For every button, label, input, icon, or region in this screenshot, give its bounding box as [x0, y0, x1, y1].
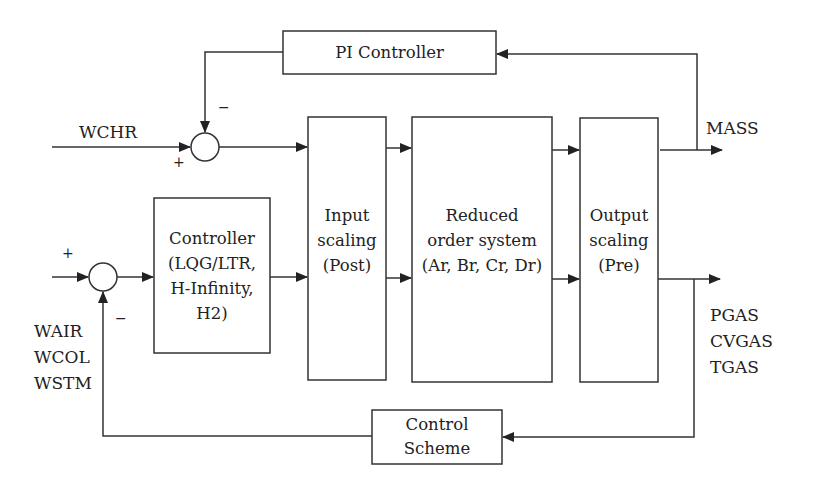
wstm-label: WSTM: [34, 370, 92, 396]
waux-inputs-label: WAIR WCOL WSTM: [34, 318, 92, 396]
gas-outputs-label: PGAS CVGAS TGAS: [710, 302, 773, 380]
cvgas-label: CVGAS: [710, 328, 773, 354]
input-scaling-label: Input scaling (Post): [308, 200, 386, 280]
upper-plus-sign: +: [173, 154, 185, 170]
pgas-label: PGAS: [710, 302, 773, 328]
upper-summing-junction: [191, 133, 219, 161]
reduced-order-label: Reduced order system (Ar, Br, Cr, Dr): [412, 200, 552, 280]
tgas-label: TGAS: [710, 354, 773, 380]
controller-label: Controller (LQG/LTR, H-Infinity, H2): [154, 198, 270, 353]
pi-controller-label: PI Controller: [283, 31, 496, 74]
gas-feedback-path: [503, 279, 694, 437]
upper-minus-sign: −: [218, 99, 230, 115]
mass-label: MASS: [706, 118, 759, 138]
control-scheme-label: Control Scheme: [372, 410, 502, 464]
mass-feedback-path: [497, 54, 697, 150]
wair-label: WAIR: [34, 318, 92, 344]
output-scaling-label: Output scaling (Pre): [580, 200, 658, 280]
wcol-label: WCOL: [34, 344, 92, 370]
wchr-label: WCHR: [79, 122, 137, 142]
lower-minus-sign: −: [115, 310, 127, 326]
lower-plus-sign: +: [62, 245, 74, 261]
lower-summing-junction: [89, 263, 117, 291]
pi-to-upper-sum-path: [205, 52, 283, 132]
